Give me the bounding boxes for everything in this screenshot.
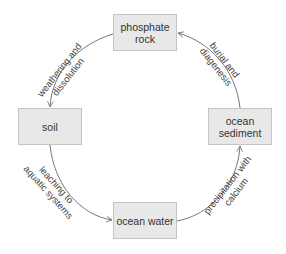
node-phosphate-rock: phosphate rock <box>113 14 177 51</box>
node-ocean-water: ocean water <box>113 202 177 239</box>
edge-label-leaching: leaching to aquatic systems <box>22 156 84 222</box>
node-soil: soil <box>18 108 82 145</box>
edge-label-weathering: weathering and dissolution <box>34 41 92 107</box>
node-label-line: ocean water <box>116 215 173 227</box>
edge-label-burial: burial and diagenesis <box>198 39 243 89</box>
node-label-line: sediment <box>219 127 262 139</box>
node-ocean-sediment: ocean sediment <box>208 108 272 145</box>
node-label-line: ocean <box>219 115 262 127</box>
edge-label-precipitation: precipitation with calcium <box>201 154 262 223</box>
node-label-line: soil <box>42 121 58 133</box>
node-label-line: rock <box>120 33 169 45</box>
node-label-line: phosphate <box>120 21 169 33</box>
